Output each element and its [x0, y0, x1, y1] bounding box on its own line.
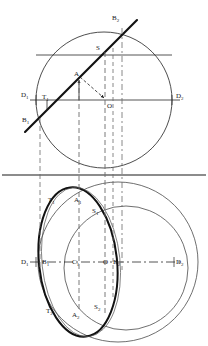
- top-view-inner-circle: [64, 206, 188, 330]
- front-label-O: O: [107, 102, 112, 110]
- front-view: B2 S A D1 T1 O D2 B1: [21, 14, 184, 168]
- front-label-B1: B1: [22, 116, 30, 125]
- front-label-S: S: [96, 44, 100, 52]
- front-label-B2: B2: [112, 14, 120, 23]
- top-label-D1: D1: [21, 258, 29, 267]
- top-label-A1: A1: [74, 196, 82, 205]
- top-label-C1: C1: [72, 258, 80, 267]
- top-label-S1: S1: [92, 207, 99, 216]
- top-label-B2: B2: [113, 258, 121, 267]
- front-label-D1: D1: [21, 91, 29, 100]
- front-label-A: A: [74, 70, 79, 78]
- arrow-A-to-O: [80, 77, 104, 98]
- top-label-T2: T2: [46, 307, 53, 316]
- geometry-canvas: B2 S A D1 T1 O D2 B1 T1 A1 S1 D1 B1 C1: [0, 0, 208, 346]
- technical-drawing-root: B2 S A D1 T1 O D2 B1 T1 A1 S1 D1 B1 C1: [0, 0, 208, 346]
- front-view-oblique-line: [25, 20, 137, 132]
- front-label-D2: D2: [176, 92, 184, 101]
- top-view: T1 A1 S1 D1 B1 C1 O B2 D2 T2 A2 S2: [21, 182, 198, 342]
- projection-lines: [40, 28, 122, 314]
- top-label-B1: B1: [42, 258, 50, 267]
- top-label-O: O: [103, 258, 108, 266]
- top-label-A2: A2: [72, 311, 80, 320]
- front-label-T1: T1: [42, 93, 49, 102]
- top-label-D2: D2: [176, 258, 184, 267]
- top-label-S2: S2: [94, 303, 101, 312]
